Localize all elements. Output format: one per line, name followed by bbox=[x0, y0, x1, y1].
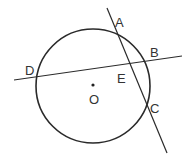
label-o: O bbox=[89, 92, 99, 107]
label-a: A bbox=[115, 15, 124, 30]
label-d: D bbox=[25, 63, 34, 78]
center-point-o bbox=[91, 83, 94, 86]
label-e: E bbox=[117, 71, 126, 86]
label-b: B bbox=[150, 45, 159, 60]
label-c: C bbox=[150, 101, 159, 116]
geometry-diagram: A B C D E O bbox=[0, 0, 190, 162]
